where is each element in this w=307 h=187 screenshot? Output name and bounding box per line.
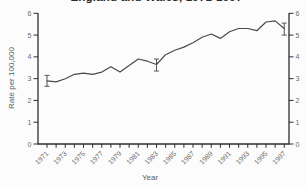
y-tick-label-left: 1 xyxy=(28,119,32,126)
x-axis-title: Year xyxy=(142,173,159,182)
x-tick-label: 1977 xyxy=(88,150,104,166)
x-tick-label: 1987 xyxy=(180,150,196,166)
x-tick-label: 1995 xyxy=(253,150,269,166)
x-tick-label: 1991 xyxy=(216,150,232,166)
x-tick-label: 1971 xyxy=(34,150,50,166)
y-tick-label-left: 6 xyxy=(28,10,32,17)
y-tick-label-right: 5 xyxy=(296,32,300,39)
y-tick-label-right: 6 xyxy=(296,10,300,17)
x-tick-label: 1979 xyxy=(107,150,123,166)
y-tick-label-right: 1 xyxy=(296,119,300,126)
x-tick-label: 1981 xyxy=(125,150,141,166)
y-tick-label-left: 3 xyxy=(28,75,32,82)
y-tick-label-right: 4 xyxy=(296,53,300,60)
y-tick-label-right: 3 xyxy=(296,75,300,82)
y-tick-label-left: 4 xyxy=(28,53,32,60)
x-tick-label: 1983 xyxy=(143,150,159,166)
x-tick-label: 1973 xyxy=(52,150,68,166)
chart-canvas: 0011223344556619711973197519771979198119… xyxy=(0,0,307,187)
y-tick-label-left: 2 xyxy=(28,97,32,104)
y-tick-label-right: 0 xyxy=(296,141,300,148)
x-tick-label: 1989 xyxy=(198,150,214,166)
y-axis-title: Rate per 100,000 xyxy=(7,47,16,109)
x-tick-label: 1997 xyxy=(271,150,287,166)
x-tick-label: 1993 xyxy=(234,150,250,166)
data-line xyxy=(47,21,284,82)
x-tick-label: 1975 xyxy=(70,150,86,166)
axis-frame xyxy=(38,13,289,144)
chart-title: England and Wales, 1971-1997 xyxy=(6,0,307,3)
x-tick-label: 1985 xyxy=(161,150,177,166)
line-chart-figure: 0011223344556619711973197519771979198119… xyxy=(0,0,307,187)
y-tick-label-right: 2 xyxy=(296,97,300,104)
y-tick-label-left: 0 xyxy=(28,141,32,148)
y-tick-label-left: 5 xyxy=(28,32,32,39)
